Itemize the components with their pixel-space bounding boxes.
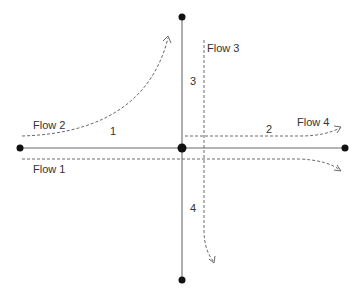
segment-2-label: 2 xyxy=(266,124,272,135)
flow-4-arrow-icon xyxy=(334,126,341,133)
flow-1-label: Flow 1 xyxy=(33,164,65,175)
node-center xyxy=(178,144,187,153)
node-bottom xyxy=(179,277,186,284)
node-right xyxy=(342,145,349,152)
diagram-canvas xyxy=(0,0,359,296)
node-top xyxy=(179,14,186,21)
flow-2-label: Flow 2 xyxy=(33,120,65,131)
segment-4-label: 4 xyxy=(190,203,196,214)
flow-4-path xyxy=(185,128,340,136)
segment-1-label: 1 xyxy=(110,126,116,137)
flow-3-label: Flow 3 xyxy=(207,43,239,54)
flow-3-path xyxy=(204,40,214,262)
node-left xyxy=(17,145,24,152)
flow-4-label: Flow 4 xyxy=(297,117,329,128)
flow-1-path xyxy=(22,159,340,170)
segment-3-label: 3 xyxy=(190,76,196,87)
